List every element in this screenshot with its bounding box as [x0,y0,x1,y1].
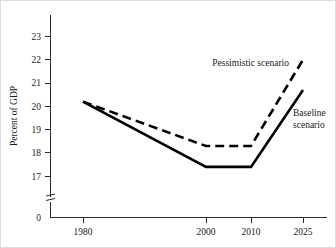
x-tick-label-1980: 1980 [74,227,93,237]
x-tick-label-2010: 2010 [242,227,261,237]
y-tick-label-18: 18 [32,148,42,158]
y-axis-title: Percent of GDP [9,86,19,146]
chart-figure: 23 22 21 20 19 18 17 0 Percent of GDP 19… [0,0,336,248]
annotation-baseline-scenario-line1: Baseline [293,108,326,118]
y-tick-label-20: 20 [32,102,42,112]
y-tick-label-21: 21 [32,78,42,88]
y-tick-label-19: 19 [32,125,42,135]
y-axis-break-icon [46,194,55,201]
series-line-baseline-scenario [83,90,303,167]
x-tick-label-2000: 2000 [197,227,216,237]
x-tick-label-2025: 2025 [294,227,313,237]
annotation-baseline-scenario-line2: scenario [293,120,325,130]
annotation-pessimistic-scenario: Pessimistic scenario [212,58,289,68]
y-tick-label-23: 23 [32,32,42,42]
y-tick-label-0: 0 [36,213,41,223]
y-tick-label-22: 22 [32,55,42,65]
y-tick-label-17: 17 [32,172,42,182]
series-line-pessimistic-scenario [83,60,303,146]
chart-canvas: 23 22 21 20 19 18 17 0 Percent of GDP 19… [1,1,336,248]
